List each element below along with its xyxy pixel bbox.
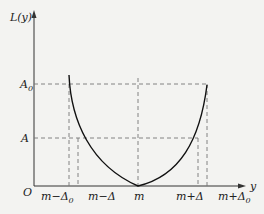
- x-tick-m-plus-delta: m+Δ: [176, 190, 204, 203]
- x-tick-m-minus-delta0: m−Δ0: [41, 190, 74, 205]
- x-tick-m-plus-delta0: m+Δ0: [218, 190, 251, 205]
- y-axis-arrow-icon: [32, 10, 37, 18]
- x-axis-arrow-icon: [238, 184, 246, 189]
- y-tick-a: A: [20, 132, 29, 145]
- x-axis-label: y: [249, 180, 257, 193]
- y-tick-a0: A0: [19, 78, 33, 93]
- y-axis-label: L(y): [9, 11, 32, 24]
- diagram-canvas: L(y) y O A0 A m−Δ0 m−Δ m m+Δ m+Δ0: [0, 0, 264, 214]
- x-tick-m-minus-delta: m−Δ: [88, 190, 116, 203]
- loss-function-diagram: L(y) y O A0 A m−Δ0 m−Δ m m+Δ m+Δ0: [0, 0, 264, 214]
- origin-label: O: [23, 186, 32, 199]
- guide-lines: [34, 78, 207, 186]
- x-tick-m: m: [134, 190, 144, 203]
